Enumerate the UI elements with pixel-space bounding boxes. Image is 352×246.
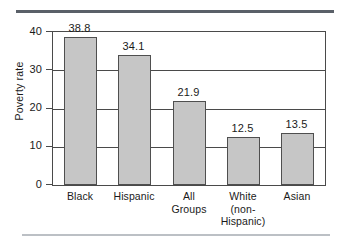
bar-asian (281, 133, 314, 185)
plot-area (52, 31, 326, 186)
ytick-mark-10 (46, 146, 52, 147)
category-label-asian: Asian (245, 190, 350, 203)
y-axis-title: Poverty rate (13, 36, 25, 146)
bar-white-non-hispanic (227, 137, 260, 185)
ytick-mark-30 (46, 69, 52, 70)
bottom-divider-rule (22, 234, 330, 236)
bar-value-black: 38.8 (37, 23, 123, 34)
bar-black (64, 37, 97, 185)
bar-value-asian: 13.5 (254, 119, 340, 130)
ytick-label-0: 0 (2, 179, 42, 190)
bar-value-all-groups: 21.9 (146, 87, 232, 98)
bar-value-hispanic: 34.1 (91, 41, 177, 52)
bar-hispanic (118, 55, 151, 185)
ytick-mark-20 (46, 108, 52, 109)
ytick-mark-0 (46, 184, 52, 185)
bar-all-groups (173, 101, 206, 185)
top-divider-rule (16, 10, 334, 13)
poverty-rate-bar-chart: 40 30 20 10 0 Poverty rate 38.8 34.1 21.… (0, 0, 352, 246)
